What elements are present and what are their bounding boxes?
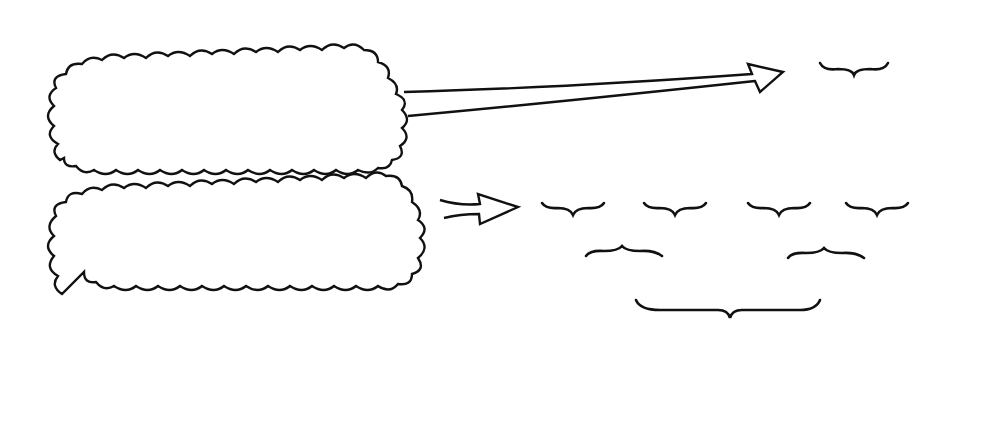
brace-pair-2 (644, 203, 706, 215)
callout-cloud-2 (48, 172, 425, 294)
arrow-1 (404, 64, 783, 116)
callout-cloud-1 (48, 44, 407, 174)
brace-pair-4 (846, 203, 908, 215)
brace-identity (820, 63, 888, 75)
brace-row2-right (788, 248, 864, 258)
brace-row2-left (586, 246, 662, 256)
brace-pair-3 (748, 203, 810, 215)
arrow-2 (440, 194, 518, 224)
brace-row3 (636, 300, 820, 318)
brace-pair-1 (542, 203, 604, 215)
diagram-graphics (0, 0, 995, 426)
